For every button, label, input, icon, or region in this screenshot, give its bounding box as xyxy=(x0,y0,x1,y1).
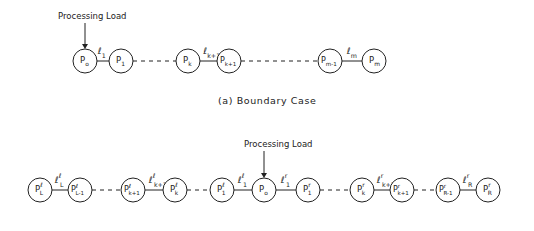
caption-boundary-case: (a) Boundary Case xyxy=(218,95,316,106)
a-node-p1: P1 xyxy=(109,49,133,73)
b-link-label-pR1-pR: ℓrR xyxy=(462,172,473,188)
a-node-pm1: Pm-1 xyxy=(318,49,342,73)
b-node-pR: PrR xyxy=(476,178,500,202)
b-node-pL1: PℓL-1 xyxy=(68,178,92,202)
processing-load-arrow-a xyxy=(82,23,88,49)
b-link-label-p0-p1r: ℓr1 xyxy=(280,172,290,188)
processing-load-label-b: Processing Load xyxy=(244,139,312,149)
b-node-pkr: Prk xyxy=(350,178,374,202)
b-node-pL: PℓL xyxy=(28,178,52,202)
processing-load-label-a: Processing Load xyxy=(58,11,126,21)
a-node-pk: Pk xyxy=(176,49,200,73)
processing-load-arrow-b xyxy=(261,151,267,178)
b-link-label-p1l-p0: ℓℓ1 xyxy=(237,172,247,188)
b-node-pR1: PrR-1 xyxy=(436,178,460,202)
load-distribution-diagram: Processing Load ℓ1ℓk+1ℓm PoP1PkPk+1Pm-1P… xyxy=(0,0,534,231)
boundary-case-diagram: Processing Load ℓ1ℓk+1ℓm PoP1PkPk+1Pm-1P… xyxy=(58,11,386,106)
a-node-p0: Po xyxy=(73,49,97,73)
b-node-p1r: Pr1 xyxy=(296,178,320,202)
a-link-label-pm1-pm: ℓm xyxy=(346,46,357,59)
b-node-pkr1: Prk+1 xyxy=(390,178,414,202)
b-link-label-pL-pL1: ℓℓL xyxy=(54,172,64,188)
interior-case-diagram: Processing Load ℓℓLℓℓk+1ℓℓ1ℓr1ℓrk+1ℓrR P… xyxy=(28,139,500,202)
a-node-pm: Pm xyxy=(362,49,386,73)
nodes-b: PℓLPℓL-1Pℓk+1PℓkPℓ1PoPr1PrkPrk+1PrR-1PrR xyxy=(28,178,500,202)
b-node-pkl1: Pℓk+1 xyxy=(121,178,145,202)
b-node-p0: Po xyxy=(252,178,276,202)
a-link-label-p0-p1: ℓ1 xyxy=(97,46,106,59)
nodes-a: PoP1PkPk+1Pm-1Pm xyxy=(73,49,386,73)
a-node-pk1: Pk+1 xyxy=(217,49,241,73)
b-node-p1l: Pℓ1 xyxy=(210,178,234,202)
b-node-pkl: Pℓk xyxy=(163,178,187,202)
